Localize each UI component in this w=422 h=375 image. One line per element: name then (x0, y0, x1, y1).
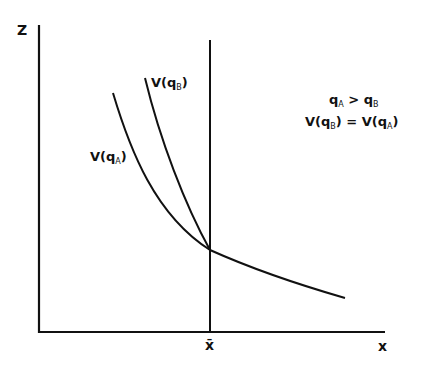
curve-label-v-qb-close: ) (182, 75, 188, 90)
curve-label-v-qb-main: V(q (151, 75, 176, 90)
curve-v-qb (145, 78, 210, 250)
ann2-c: ) (393, 114, 399, 129)
ann1-s2: B (373, 100, 379, 109)
ann2-b: ) = V(q (336, 114, 387, 129)
ann1-q2: q (364, 92, 373, 107)
ann2-a: V(q (305, 114, 330, 129)
x-bar-label: x̄ (205, 338, 214, 352)
annotation-line-2: V(qB) = V(qA) (305, 115, 398, 131)
ann1-q1: q (329, 92, 338, 107)
curve-label-v-qa: V(qA) (90, 150, 127, 166)
x-axis-label: x (378, 339, 387, 353)
curve-label-v-qa-close: ) (121, 149, 127, 164)
curve-label-v-qa-main: V(q (90, 149, 115, 164)
curve-label-v-qb: V(qB) (151, 76, 188, 92)
diagram-canvas (0, 0, 422, 375)
y-axis-label: Z (17, 23, 27, 37)
annotation-line-1: qA > qB (329, 93, 379, 109)
ann1-op: > (344, 92, 364, 107)
